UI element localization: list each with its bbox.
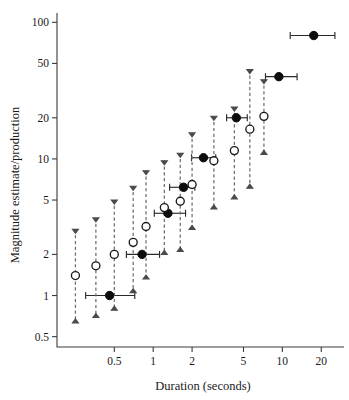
- error-bar-cap-lower: [130, 289, 136, 293]
- error-bar-cap-upper: [231, 107, 237, 111]
- error-bar-cap-upper: [130, 186, 136, 190]
- error-bar-cap-upper: [247, 70, 253, 74]
- error-bar-cap-lower: [111, 306, 117, 310]
- data-point-magnitude-estimate: [142, 223, 150, 231]
- y-tick-label: 50: [38, 57, 50, 69]
- data-point-production: [138, 250, 146, 258]
- error-bar-cap-upper: [143, 171, 149, 175]
- data-point-magnitude-estimate: [129, 238, 137, 246]
- error-bar-cap-lower: [261, 150, 267, 154]
- data-point-magnitude-estimate: [92, 262, 100, 270]
- errorbars-group: [72, 32, 334, 323]
- data-point-magnitude-estimate: [260, 112, 268, 120]
- axes-group: 0.512510200.5125102050100: [32, 13, 344, 367]
- data-point-magnitude-estimate: [188, 180, 196, 188]
- error-bar-cap-upper: [93, 218, 99, 222]
- data-point-magnitude-estimate: [176, 197, 184, 205]
- y-tick-label: 1: [43, 290, 49, 302]
- scatter-plot-canvas: 0.512510200.5125102050100 Duration (seco…: [0, 0, 349, 400]
- error-bar-cap-lower: [189, 225, 195, 229]
- x-tick-label: 0.5: [107, 355, 122, 367]
- error-bar-cap-lower: [247, 184, 253, 188]
- error-bar-cap-upper: [72, 229, 78, 233]
- x-tick-label: 1: [150, 355, 156, 367]
- data-point-production: [179, 183, 187, 191]
- x-tick-label: 20: [316, 355, 328, 367]
- x-axis-title: Duration (seconds): [155, 379, 250, 393]
- error-bar-cap-upper: [161, 161, 167, 165]
- error-bar-cap-lower: [143, 275, 149, 279]
- error-bar-cap-lower: [177, 248, 183, 252]
- y-axis-title: Magnitude estimate/production: [8, 106, 22, 263]
- y-tick-label: 5: [43, 194, 49, 206]
- error-bar-cap-upper: [177, 153, 183, 157]
- error-bar-cap-lower: [161, 250, 167, 254]
- axis-spines: [57, 13, 344, 347]
- data-point-production: [105, 291, 113, 299]
- data-point-production: [232, 114, 240, 122]
- data-points-group: [71, 31, 318, 299]
- error-bar-cap-lower: [93, 314, 99, 318]
- x-tick-label: 5: [241, 355, 247, 367]
- x-tick-label: 10: [277, 355, 289, 367]
- data-point-magnitude-estimate: [71, 272, 79, 280]
- data-point-production: [275, 72, 283, 80]
- error-bar-cap-upper: [111, 200, 117, 204]
- data-point-magnitude-estimate: [230, 147, 238, 155]
- y-tick-label: 10: [38, 153, 50, 165]
- error-bar-cap-lower: [211, 205, 217, 209]
- error-bar-cap-lower: [231, 195, 237, 199]
- data-point-magnitude-estimate: [160, 204, 168, 212]
- data-point-magnitude-estimate: [246, 125, 254, 133]
- data-point-magnitude-estimate: [110, 250, 118, 258]
- data-point-magnitude-estimate: [210, 157, 218, 165]
- error-bar-cap-lower: [72, 319, 78, 323]
- x-tick-label: 2: [189, 355, 195, 367]
- y-tick-label: 0.5: [35, 331, 50, 343]
- y-tick-label: 20: [38, 112, 50, 124]
- error-bar-cap-upper: [211, 116, 217, 120]
- y-tick-label: 100: [32, 16, 50, 28]
- error-bar-cap-upper: [261, 80, 267, 84]
- y-tick-label: 2: [43, 248, 49, 260]
- error-bar-cap-upper: [189, 133, 195, 137]
- chart-figure: 0.512510200.5125102050100 Duration (seco…: [0, 0, 349, 400]
- data-point-production: [310, 31, 318, 39]
- data-point-production: [199, 154, 207, 162]
